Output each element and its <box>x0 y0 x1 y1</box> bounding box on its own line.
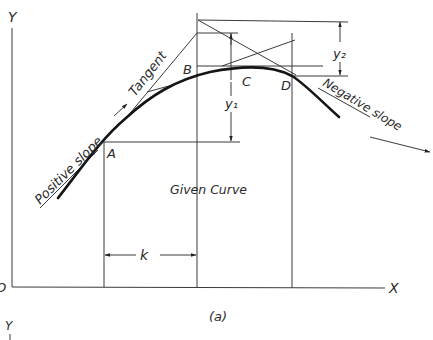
negative-slope-label: Negative slope <box>320 76 404 134</box>
y2-label: y₂ <box>332 46 346 61</box>
k-label: k <box>140 247 149 263</box>
point-c-label: C <box>242 74 252 89</box>
point-b-label: B <box>183 62 192 77</box>
given-curve <box>58 67 339 198</box>
horizontal-top <box>198 20 348 22</box>
chord-line <box>222 40 295 66</box>
labels: Y X O Y A B C D Tangent Positive slope N… <box>0 9 404 333</box>
y-axis-label: Y <box>8 9 18 25</box>
origin-label: O <box>0 280 6 295</box>
positive-slope-label: Positive slope <box>32 133 106 207</box>
negative-slope-arrow <box>370 137 430 152</box>
point-a-label: A <box>106 146 116 161</box>
slope-diagram: Y X O Y A B C D Tangent Positive slope N… <box>0 0 433 340</box>
dimensions <box>105 22 340 255</box>
lower-y-label: Y <box>5 319 14 333</box>
tangent-arrow <box>114 104 127 116</box>
y1-label: y₁ <box>224 96 238 111</box>
figure-caption: (a) <box>209 309 227 324</box>
x-axis <box>12 287 385 288</box>
given-curve-label: Given Curve <box>170 182 247 197</box>
point-d-label: D <box>281 78 291 93</box>
x-axis-label: X <box>388 280 399 296</box>
